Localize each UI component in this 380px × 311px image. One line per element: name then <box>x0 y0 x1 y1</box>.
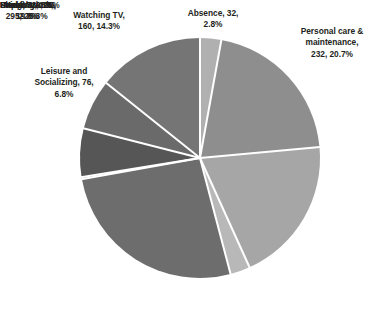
slice-label-leisure-and-socializing: Leisure and Socializing, 76, 6.8% <box>18 66 110 100</box>
slice-label-absence: Absence, 32, 2.8% <box>176 8 250 31</box>
slice-label-personal-care: Personal care & maintenance, 232, 20.7% <box>286 26 378 60</box>
pie-chart: Watching TV, 160, 14.3% Absence, 32, 2.8… <box>0 0 380 311</box>
slice-label-sleeping: Sleeping, 221, 19.8% <box>0 0 55 23</box>
slice-label-watching-tv: Watching TV, 160, 14.3% <box>56 10 142 33</box>
